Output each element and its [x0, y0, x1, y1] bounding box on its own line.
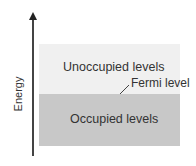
fermi-leader-line: [0, 0, 196, 166]
